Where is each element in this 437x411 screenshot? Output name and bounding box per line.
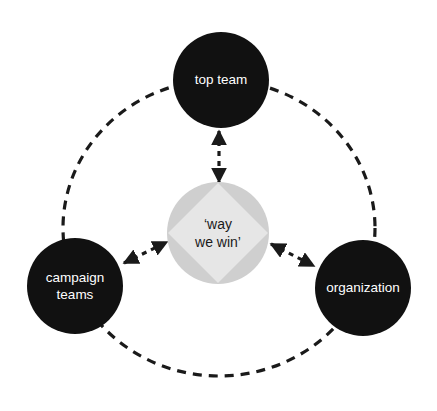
arrow-right-to-center xyxy=(271,244,314,266)
organization-label: organization xyxy=(326,280,400,295)
node-way-we-win: ‘way we win’ xyxy=(167,182,269,284)
center-label-line-2: we win’ xyxy=(194,234,241,250)
node-organization: organization xyxy=(315,240,411,336)
campaign-teams-circle xyxy=(27,238,123,334)
top-team-label: top team xyxy=(195,72,248,87)
campaign-teams-label-line-1: campaign xyxy=(46,270,105,285)
center-label-line-1: ‘way xyxy=(204,216,232,232)
diagram-canvas: ‘way we win’ top team campaign teams org… xyxy=(0,0,437,411)
node-top-team: top team xyxy=(173,32,269,128)
campaign-teams-label-line-2: teams xyxy=(57,287,94,302)
arrow-left-to-center xyxy=(124,242,167,263)
node-campaign-teams: campaign teams xyxy=(27,238,123,334)
